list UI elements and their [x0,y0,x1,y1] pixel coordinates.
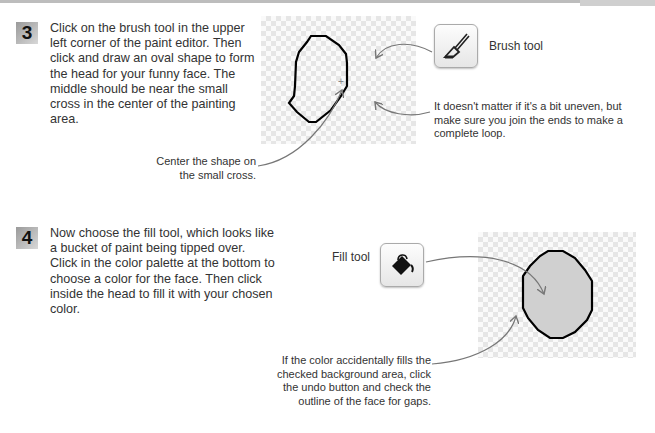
filled-head [523,251,592,338]
center-cross-icon: + [338,76,344,87]
illustration-overlay: + [0,0,655,433]
